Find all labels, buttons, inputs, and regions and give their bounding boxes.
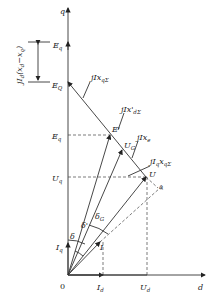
d-label: d [198, 283, 203, 292]
q-label: q [60, 7, 65, 16]
e-prime-phasor [68, 135, 110, 275]
delta-label: δ [70, 232, 75, 241]
jixe-label: jIxe [135, 133, 151, 143]
i-extension [100, 188, 160, 242]
leader-jiqxqs [128, 166, 150, 176]
jid-xd-xq-label: jId(xd−xq) [15, 46, 26, 86]
ud-label: Ud [140, 283, 151, 293]
id-label: Id [96, 283, 104, 293]
delta-g-arc [89, 225, 108, 234]
u-label: U [149, 170, 156, 179]
jixds-label: jIx'dΣ [119, 105, 141, 115]
delta-g-label: δG [95, 212, 105, 222]
leader-jixqs [83, 82, 90, 98]
phasor-diagram: q d 0 Eq EQ Eq E' UG U Uq Ud I Iq Id jIx… [0, 0, 210, 304]
delta-prime-label: δ' [81, 221, 88, 230]
jixqs-label: jIxqΣ [89, 73, 109, 84]
ug-label: UG [124, 141, 136, 151]
u-phasor [68, 177, 146, 275]
eq-label: Eq [52, 41, 63, 52]
jiqxqs-label: jIqxqΣ [148, 157, 171, 168]
voltage-drop-line [68, 82, 146, 177]
uq-label: Uq [52, 174, 63, 185]
iq-label: Iq [55, 243, 63, 254]
e-prime-label: E' [111, 125, 120, 134]
eq-prime-label: Eq [51, 132, 62, 143]
eQ-label: EQ [51, 81, 63, 91]
origin-label: 0 [60, 282, 65, 291]
